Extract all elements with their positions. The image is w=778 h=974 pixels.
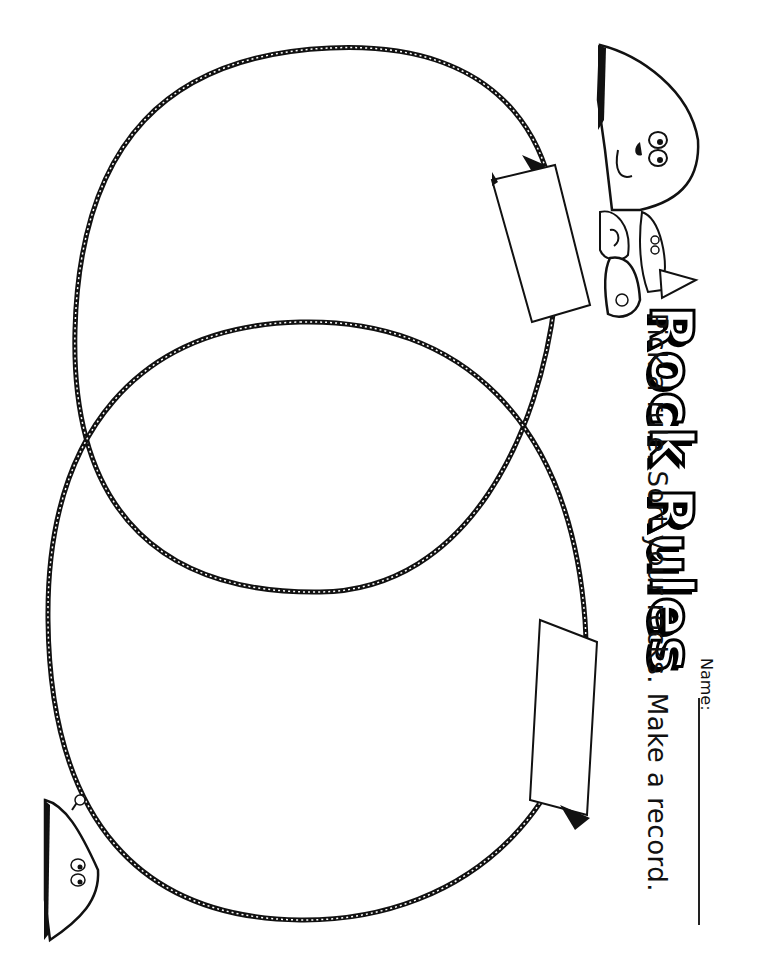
label-card-lower[interactable] (530, 620, 597, 830)
venn-circle-lower[interactable] (48, 322, 586, 920)
rock-with-flower-illustration (44, 795, 98, 940)
small-rock-characters-illustration (600, 211, 696, 316)
name-input-line[interactable] (698, 698, 700, 925)
name-label: Name: (697, 658, 716, 711)
instructions-text: Pick a rule. Sort your rocks. Make a rec… (642, 313, 672, 892)
large-rock-character-illustration (598, 45, 698, 210)
label-card-upper[interactable] (492, 155, 590, 322)
